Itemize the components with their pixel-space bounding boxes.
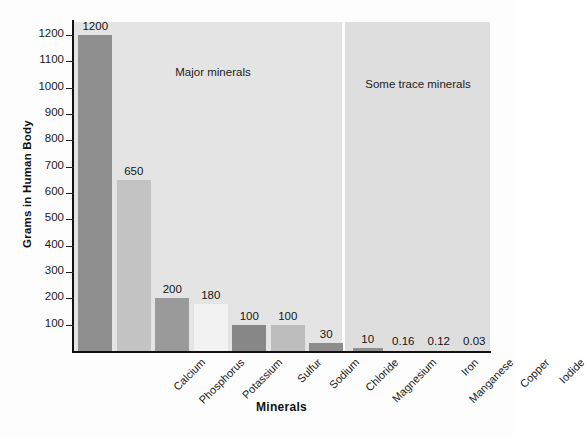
x-axis-label-potassium: Potassium	[209, 356, 285, 432]
bar-value-label: 650	[104, 165, 164, 177]
y-axis-tick	[66, 114, 74, 115]
y-axis-tick	[66, 167, 74, 168]
band-divider	[342, 22, 345, 351]
y-axis-tick-label: 1100	[26, 53, 64, 65]
y-axis-tick-label: 400	[26, 238, 64, 250]
y-axis-tick-label: 300	[26, 264, 64, 276]
bar-iron	[353, 348, 383, 351]
x-axis-label-magnesium: Magnesium	[363, 356, 439, 432]
bar-value-label: 1200	[65, 20, 125, 32]
y-axis-tick	[66, 298, 74, 299]
y-axis-tick-label: 1200	[26, 27, 64, 39]
annotation-trace-minerals: Some trace minerals	[346, 78, 490, 90]
y-axis-tick-label: 500	[26, 211, 64, 223]
x-axis-label-sulfur: Sulfur	[248, 356, 324, 432]
x-axis-label-sodium: Sodium	[286, 356, 362, 432]
y-axis-tick-label: 200	[26, 290, 64, 302]
x-axis-label-calcium: Calcium	[132, 356, 208, 432]
y-axis-tick-label: 700	[26, 159, 64, 171]
bar-sodium	[232, 325, 266, 351]
x-axis-label-iodide: Iodide	[511, 356, 587, 432]
y-axis-tick	[66, 88, 74, 89]
y-axis-tick	[66, 272, 74, 273]
bar-value-label: 180	[181, 289, 241, 301]
trace-minerals-band	[345, 22, 490, 351]
y-axis-tick	[66, 61, 74, 62]
bar-potassium	[155, 298, 189, 351]
y-axis-tick	[66, 325, 74, 326]
y-axis-tick-label: 800	[26, 132, 64, 144]
y-axis-tick-label: 100	[26, 317, 64, 329]
y-axis-tick-label: 600	[26, 185, 64, 197]
y-axis-tick-label: 1000	[26, 80, 64, 92]
y-axis-tick	[66, 219, 74, 220]
y-axis-tick	[66, 35, 74, 36]
bar-value-label: 100	[258, 310, 318, 322]
annotation-major-minerals: Major minerals	[84, 66, 342, 78]
y-axis-line	[72, 20, 74, 353]
bar-calcium	[78, 35, 112, 351]
bar-value-label: 0.03	[444, 335, 504, 347]
y-axis-tick	[66, 246, 74, 247]
x-axis-line	[72, 351, 491, 353]
x-axis-title: Minerals	[73, 400, 490, 414]
bar-phosphorus	[117, 180, 151, 351]
x-axis-label-phosphorus: Phosphorus	[171, 356, 247, 432]
x-axis-label-chloride: Chloride	[325, 356, 401, 432]
y-axis-tick-label: 900	[26, 106, 64, 118]
y-axis-tick	[66, 193, 74, 194]
y-axis-tick	[66, 140, 74, 141]
